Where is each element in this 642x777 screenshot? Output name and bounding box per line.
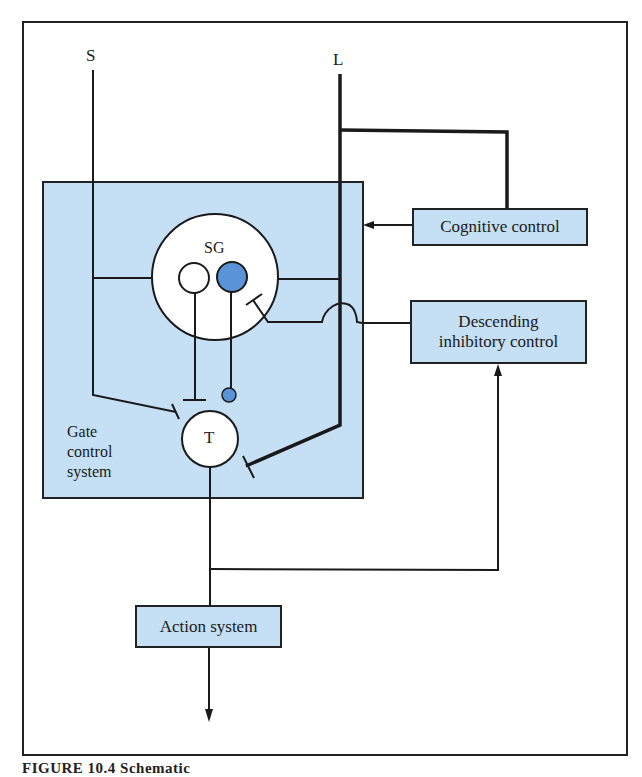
- sg-blue-neuron: [217, 262, 247, 292]
- feedback-arrowhead-icon: [494, 364, 502, 376]
- sg-white-neuron: [179, 263, 209, 293]
- sg-circle: [152, 214, 278, 340]
- cognitive-arrowhead-icon: [363, 221, 374, 229]
- action-system-box: Action system: [135, 605, 282, 648]
- l-to-cognitive-line: [340, 130, 507, 208]
- gate-label-line1: Gate: [67, 422, 112, 442]
- figure-caption: FIGURE 10.4 Schematic: [22, 760, 190, 777]
- action-system-label: Action system: [160, 617, 258, 637]
- l-fiber-label: L: [333, 50, 343, 70]
- sg-label: SG: [204, 239, 224, 257]
- t-label: T: [204, 428, 214, 448]
- s-fiber-label: S: [86, 46, 95, 66]
- gate-control-label: Gate control system: [67, 422, 112, 482]
- cognitive-control-label: Cognitive control: [440, 217, 559, 237]
- descending-label-line2: inhibitory control: [439, 332, 558, 352]
- action-arrowhead-icon: [205, 709, 213, 722]
- gate-label-line2: control: [67, 442, 112, 462]
- gate-label-line3: system: [67, 462, 112, 482]
- sg-blue-terminal: [222, 388, 236, 402]
- descending-label-line1: Descending: [458, 312, 538, 332]
- cognitive-control-box: Cognitive control: [412, 208, 588, 246]
- descending-control-box: Descending inhibitory control: [410, 300, 587, 364]
